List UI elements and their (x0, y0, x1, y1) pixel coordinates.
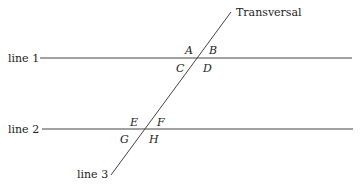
transversal-label: Transversal (236, 6, 302, 19)
angle-h-label: H (148, 133, 159, 146)
line-2-label: line 2 (8, 123, 39, 136)
angle-g-label: G (120, 133, 129, 146)
transversal-line (111, 12, 231, 175)
angle-f-label: F (156, 116, 165, 129)
angle-d-label: D (202, 62, 212, 75)
line-1-label: line 1 (8, 52, 39, 65)
angle-c-label: C (176, 62, 185, 75)
angle-a-label: A (184, 44, 193, 57)
line-3-label: line 3 (77, 168, 108, 181)
angle-e-label: E (129, 116, 138, 129)
transversal-diagram: line 1 line 2 Transversal line 3 A B C D… (0, 0, 362, 188)
angle-b-label: B (208, 44, 217, 57)
